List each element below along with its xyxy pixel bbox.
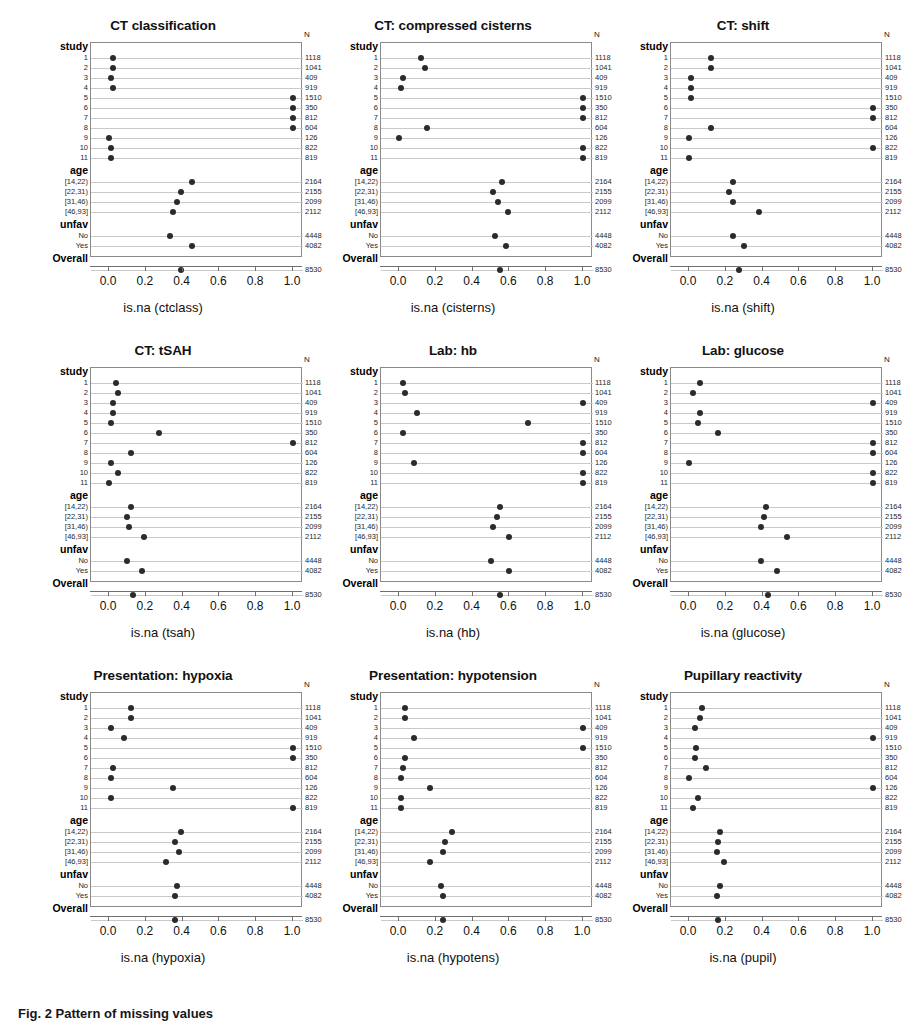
x-axis-tick-label: 0.2 xyxy=(128,274,162,288)
row-item-label: [22,31) xyxy=(20,837,88,846)
data-point xyxy=(290,755,296,761)
x-axis-tick xyxy=(255,591,256,596)
x-axis-title: is.na (tsah) xyxy=(18,625,308,640)
data-point xyxy=(580,95,586,101)
x-axis-tick xyxy=(292,591,293,596)
dotplot-panel: CT: shiftNstudy1234567891011age[14,22)[2… xyxy=(598,14,888,339)
data-point xyxy=(708,55,714,61)
row-gridline xyxy=(381,246,593,247)
row-group-label: unfav xyxy=(600,543,668,555)
x-axis-tick xyxy=(508,591,509,596)
n-value: 4082 xyxy=(885,566,902,575)
x-axis-title: is.na (hb) xyxy=(308,625,598,640)
row-gridline xyxy=(381,758,593,759)
x-axis-tick xyxy=(725,591,726,596)
x-axis-tick-label: 0.4 xyxy=(745,924,779,938)
x-axis-tick-label: 0.8 xyxy=(528,274,562,288)
row-item-label: 10 xyxy=(310,143,378,152)
row-gridline xyxy=(91,896,303,897)
row-item-label: [14,22) xyxy=(310,502,378,511)
x-axis-tick xyxy=(398,266,399,271)
row-item-label: [31,46) xyxy=(600,847,668,856)
row-item-label: 6 xyxy=(310,753,378,762)
row-group-label: Overall xyxy=(310,902,378,914)
row-item-label: 4 xyxy=(310,408,378,417)
row-item-label: 8 xyxy=(310,448,378,457)
row-item-label: 4 xyxy=(20,83,88,92)
row-item-label: Yes xyxy=(600,241,668,250)
row-item-label: No xyxy=(600,881,668,890)
row-item-label: 3 xyxy=(20,73,88,82)
x-axis-tick-label: 1.0 xyxy=(275,274,309,288)
x-axis-title: is.na (shift) xyxy=(598,300,888,315)
row-gridline xyxy=(671,778,883,779)
data-point xyxy=(580,105,586,111)
data-point xyxy=(758,558,764,564)
row-gridline xyxy=(91,463,303,464)
x-axis-tick xyxy=(582,916,583,921)
x-axis-tick xyxy=(545,916,546,921)
x-axis-tick xyxy=(725,916,726,921)
dotplot-panel: CT: tSAHNstudy1234567891011age[14,22)[22… xyxy=(18,339,308,664)
plot-area xyxy=(90,42,302,257)
row-gridline xyxy=(671,212,883,213)
row-item-label: Yes xyxy=(20,891,88,900)
row-group-label: study xyxy=(20,40,88,52)
x-axis-tick xyxy=(762,266,763,271)
x-axis-title: is.na (glucose) xyxy=(598,625,888,640)
data-point xyxy=(763,504,769,510)
n-value-strip: 1118104140991915103508126041268228192164… xyxy=(882,42,905,257)
row-gridline xyxy=(91,212,303,213)
data-point xyxy=(427,859,433,865)
data-point xyxy=(697,715,703,721)
n-value: 1118 xyxy=(885,703,901,712)
row-item-label: 11 xyxy=(310,153,378,162)
row-gridline xyxy=(671,896,883,897)
row-gridline xyxy=(381,852,593,853)
panel-title: Lab: glucose xyxy=(598,343,888,358)
data-point xyxy=(870,470,876,476)
dotplot-panel: Pupillary reactivityNstudy1234567891011a… xyxy=(598,664,888,989)
row-gridline xyxy=(381,832,593,833)
data-point xyxy=(402,755,408,761)
n-value: 812 xyxy=(885,438,898,447)
row-gridline xyxy=(381,236,593,237)
row-gridline xyxy=(381,138,593,139)
data-point xyxy=(141,534,147,540)
panel-title: CT: compressed cisterns xyxy=(308,18,598,33)
n-value: 1041 xyxy=(885,713,902,722)
row-gridline xyxy=(671,842,883,843)
n-value: 819 xyxy=(885,803,898,812)
row-gridline xyxy=(381,270,593,271)
x-axis-line xyxy=(90,916,302,917)
row-item-label: 3 xyxy=(20,723,88,732)
data-point xyxy=(172,893,178,899)
data-point xyxy=(695,795,701,801)
x-axis-tick-label: 0.6 xyxy=(491,274,525,288)
n-value: 350 xyxy=(885,753,898,762)
n-value: 2164 xyxy=(885,502,902,511)
x-axis-tick-label: 0.6 xyxy=(201,924,235,938)
data-point xyxy=(736,267,742,273)
x-axis-tick-label: 0.0 xyxy=(91,274,125,288)
n-value: 1510 xyxy=(885,418,902,427)
row-item-label: 7 xyxy=(20,763,88,772)
x-axis-tick xyxy=(292,266,293,271)
row-gridline xyxy=(671,98,883,99)
row-item-label: 1 xyxy=(20,378,88,387)
row-item-label: 6 xyxy=(310,103,378,112)
n-value: 2099 xyxy=(885,522,902,531)
x-axis-tick xyxy=(108,591,109,596)
n-value: 2155 xyxy=(885,512,902,521)
n-value: 2155 xyxy=(885,837,902,846)
row-gridline xyxy=(381,561,593,562)
n-value-strip: 1118104140991915103508126041268228192164… xyxy=(882,367,905,582)
row-gridline xyxy=(91,920,303,921)
x-axis-tick-label: 0.4 xyxy=(745,274,779,288)
x-axis-tick xyxy=(835,266,836,271)
row-group-label: age xyxy=(20,489,88,501)
x-axis-tick-label: 0.2 xyxy=(708,924,742,938)
n-value: 2164 xyxy=(885,177,902,186)
x-axis-tick xyxy=(218,266,219,271)
row-gridline xyxy=(671,738,883,739)
